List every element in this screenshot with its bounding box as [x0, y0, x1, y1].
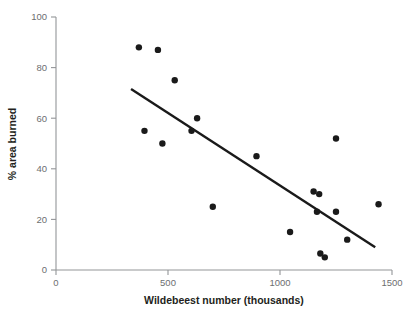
data-point	[253, 153, 259, 159]
trend-line-group	[131, 89, 375, 247]
y-tick-label: 80	[36, 62, 47, 73]
data-point	[333, 209, 339, 215]
axes-group	[56, 17, 392, 270]
data-point	[172, 77, 178, 83]
y-tick-label: 0	[42, 264, 47, 275]
y-axis-title: % area burned	[6, 108, 18, 180]
data-point	[210, 204, 216, 210]
trend-line	[131, 89, 375, 247]
data-point	[136, 44, 142, 50]
x-axis-title: Wildebeest number (thousands)	[144, 294, 304, 306]
x-tick-label: 500	[160, 277, 176, 288]
y-tick-label: 100	[31, 11, 47, 22]
data-point	[316, 191, 322, 197]
x-tick-label: 0	[53, 277, 58, 288]
data-point	[194, 115, 200, 121]
data-point	[344, 236, 350, 242]
y-tick-label: 20	[36, 214, 47, 225]
data-point	[287, 229, 293, 235]
x-axis-ticks: 050010001500	[53, 270, 402, 288]
x-tick-label: 1500	[381, 277, 402, 288]
data-point	[375, 201, 381, 207]
data-point	[159, 140, 165, 146]
scatter-plot: 020406080100 050010001500 Wildebeest num…	[0, 0, 416, 318]
y-axis-ticks: 020406080100	[31, 11, 56, 275]
y-tick-label: 60	[36, 113, 47, 124]
data-point	[333, 135, 339, 141]
data-point	[322, 254, 328, 260]
y-tick-label: 40	[36, 163, 47, 174]
x-tick-label: 1000	[269, 277, 290, 288]
data-point	[310, 188, 316, 194]
data-point	[155, 47, 161, 53]
data-point	[141, 128, 147, 134]
chart-figure: 020406080100 050010001500 Wildebeest num…	[0, 0, 416, 318]
